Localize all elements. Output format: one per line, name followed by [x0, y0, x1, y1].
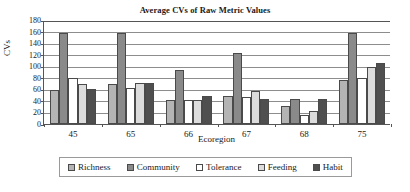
plot-inner: 020406080100120140160180456566676875 — [44, 21, 390, 124]
bar-group — [275, 21, 333, 124]
y-axis-tick-label: 60 — [33, 86, 41, 94]
legend-swatch-icon — [127, 164, 134, 171]
bar-feeding-45 — [78, 84, 87, 124]
legend-label: Richness — [78, 162, 111, 172]
bar-tolerance-68 — [300, 115, 309, 124]
x-axis-tick-mark — [275, 124, 276, 127]
bar-tolerance-75 — [357, 78, 366, 124]
bar-group — [102, 21, 160, 124]
bar-tolerance-45 — [68, 78, 77, 124]
legend-swatch-icon — [68, 164, 75, 171]
bar-community-45 — [59, 33, 68, 124]
legend-item-habit[interactable]: Habit — [313, 162, 343, 172]
y-axis-tick-label: 120 — [29, 52, 41, 60]
y-axis-title: CVs — [2, 40, 12, 56]
x-axis-tick-mark — [160, 124, 161, 127]
y-axis-tick-label: 40 — [33, 98, 41, 106]
bar-habit-67 — [260, 99, 269, 124]
bar-feeding-68 — [309, 111, 318, 124]
y-axis-tick-label: 160 — [29, 29, 41, 37]
bar-richness-75 — [339, 80, 348, 124]
bar-community-66 — [175, 70, 184, 124]
legend-label: Habit — [323, 162, 343, 172]
x-axis-tick-mark — [44, 124, 45, 127]
bar-habit-75 — [376, 63, 385, 124]
bar-tolerance-67 — [242, 97, 251, 124]
bar-tolerance-66 — [184, 100, 193, 124]
plot-area: 020406080100120140160180456566676875 — [43, 21, 390, 125]
bar-group — [218, 21, 276, 124]
x-axis-tick-mark — [218, 124, 219, 127]
legend-item-richness[interactable]: Richness — [68, 162, 111, 172]
bar-habit-66 — [202, 96, 211, 124]
bar-tolerance-65 — [126, 88, 135, 124]
bar-group — [44, 21, 102, 124]
bar-community-65 — [117, 33, 126, 124]
x-axis-title: Ecoregion — [43, 134, 390, 144]
bar-habit-45 — [87, 89, 96, 124]
chart-legend: RichnessCommunityToleranceFeedingHabit — [59, 157, 352, 177]
bar-feeding-65 — [135, 83, 144, 124]
y-axis-tick-label: 20 — [33, 109, 41, 117]
bar-richness-65 — [108, 84, 117, 124]
legend-label: Feeding — [268, 162, 297, 172]
y-axis-tick-label: 100 — [29, 63, 41, 71]
y-axis-tick-label: 180 — [29, 17, 41, 25]
bar-community-67 — [233, 53, 242, 124]
legend-swatch-icon — [258, 164, 265, 171]
bar-richness-45 — [50, 90, 59, 124]
x-axis-tick-mark — [102, 124, 103, 127]
bar-richness-66 — [166, 100, 175, 124]
bar-community-75 — [348, 33, 357, 124]
bar-feeding-66 — [193, 100, 202, 124]
x-axis-tick-mark — [333, 124, 334, 127]
bar-feeding-67 — [251, 91, 260, 124]
bar-community-68 — [290, 99, 299, 124]
legend-swatch-icon — [313, 164, 320, 171]
y-axis-tick-label: 140 — [29, 40, 41, 48]
x-axis-tick-mark — [391, 124, 392, 127]
legend-swatch-icon — [196, 164, 203, 171]
legend-item-feeding[interactable]: Feeding — [258, 162, 297, 172]
bar-habit-65 — [145, 83, 154, 124]
y-axis-tick-label: 0 — [37, 121, 41, 129]
chart-container: Average CVs of Raw Metric Values CVs 020… — [0, 0, 410, 192]
legend-item-tolerance[interactable]: Tolerance — [196, 162, 241, 172]
bar-group — [160, 21, 218, 124]
y-axis-tick-label: 80 — [33, 75, 41, 83]
bar-richness-68 — [281, 106, 290, 124]
legend-item-community[interactable]: Community — [127, 162, 180, 172]
legend-label: Community — [137, 162, 180, 172]
bar-feeding-75 — [367, 67, 376, 124]
bar-habit-68 — [318, 99, 327, 124]
chart-title: Average CVs of Raw Metric Values — [0, 5, 410, 15]
bar-richness-67 — [223, 96, 232, 124]
bar-group — [333, 21, 391, 124]
legend-label: Tolerance — [206, 162, 241, 172]
